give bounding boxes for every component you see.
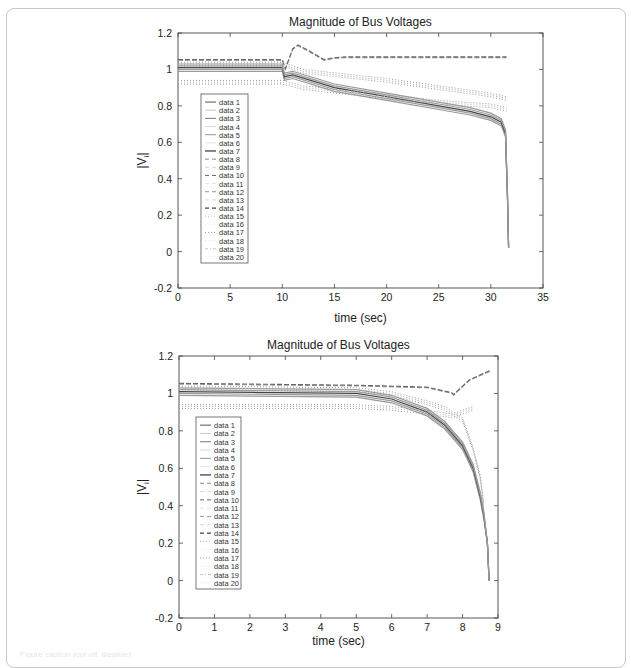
y-tick-label: 0.6: [158, 462, 173, 474]
x-tick-label: 30: [485, 291, 497, 303]
x-tick-label: 5: [353, 621, 359, 633]
x-tick-label: 4: [318, 621, 324, 633]
y-tick-label: 0: [166, 246, 172, 258]
y-tick-label: -0.2: [155, 612, 173, 624]
y-tick-label: 1: [166, 63, 172, 75]
x-axis-label: time (sec): [334, 311, 387, 325]
y-tick-label: 0.6: [157, 136, 172, 148]
x-tick-label: 6: [389, 621, 395, 633]
x-tick-label: 0: [175, 291, 181, 303]
figure-caption: Figure caption (cut off, illegible): [20, 650, 620, 658]
y-tick-label: -0.2: [154, 282, 172, 294]
x-tick-label: 8: [460, 621, 466, 633]
y-tick-label: 1: [167, 387, 173, 399]
x-axis-label: time (sec): [312, 634, 365, 648]
x-tick-label: 10: [276, 291, 288, 303]
y-tick-label: 0.2: [158, 537, 173, 549]
y-axis-label: |Vi|: [135, 152, 151, 168]
chart-1: Magnitude of Bus Voltages05101520253035-…: [135, 15, 549, 325]
y-tick-label: 1.2: [157, 27, 172, 39]
x-tick-label: 9: [495, 621, 501, 633]
y-tick-label: 0.8: [158, 425, 173, 437]
y-tick-label: 0.4: [158, 500, 173, 512]
x-tick-label: 20: [381, 291, 393, 303]
x-tick-label: 15: [329, 291, 341, 303]
x-tick-label: 3: [282, 621, 288, 633]
x-tick-label: 2: [247, 621, 253, 633]
y-axis-label: |Vi|: [135, 479, 151, 495]
y-tick-label: 0: [167, 575, 173, 587]
x-tick-label: 1: [212, 621, 218, 633]
x-tick-label: 0: [176, 621, 182, 633]
legend: data 1data 2data 3data 4data 5data 6data…: [201, 94, 248, 263]
legend-item: data 20: [219, 253, 244, 262]
y-tick-label: 1.2: [158, 350, 173, 362]
legend-item: data 20: [214, 579, 239, 588]
x-tick-label: 35: [537, 291, 549, 303]
x-tick-label: 7: [424, 621, 430, 633]
chart-title: Magnitude of Bus Voltages: [289, 15, 432, 29]
chart-2: Magnitude of Bus Voltages0123456789-0.20…: [135, 338, 501, 648]
y-tick-label: 0.8: [157, 100, 172, 112]
y-tick-label: 0.4: [157, 173, 172, 185]
legend: data 1data 2data 3data 4data 5data 6data…: [196, 417, 241, 589]
data-series-line: [178, 45, 507, 69]
y-tick-label: 0.2: [157, 209, 172, 221]
chart-title: Magnitude of Bus Voltages: [267, 338, 410, 352]
caption-text: Figure caption (cut off, illegible): [20, 650, 131, 658]
x-tick-label: 5: [227, 291, 233, 303]
x-tick-label: 25: [433, 291, 445, 303]
